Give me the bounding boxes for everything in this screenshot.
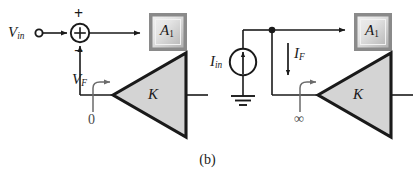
block-a1-label-left: A1 [160,23,174,39]
feedback-current-label: IF [294,46,305,62]
block-a1-label-right: A1 [365,23,379,39]
amplifier-gain-label-left: K [148,87,158,102]
input-impedance-pointer-right [300,82,316,112]
summer-plus-label: + [74,6,83,22]
input-current-label: Iin [210,54,222,70]
input-terminal-circle [35,29,42,36]
figure-b-container: Vin + − A1 K VF 0 Iin IF A1 K ∞ (b) [0,0,415,182]
feedback-voltage-label: VF [72,72,87,88]
input-voltage-label: Vin [8,25,24,41]
input-impedance-label-left: 0 [88,113,95,127]
figure-caption: (b) [0,152,415,168]
input-impedance-pointer-left [93,82,110,112]
input-impedance-label-right: ∞ [294,112,304,126]
amplifier-gain-label-right: K [353,87,363,102]
summer-minus-label: − [74,43,83,59]
